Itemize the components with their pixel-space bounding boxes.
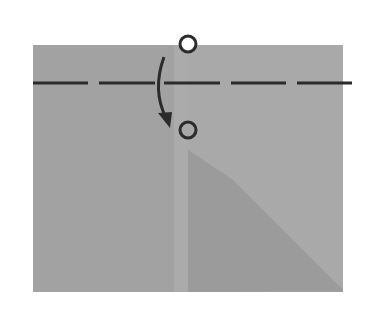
start-point-circle-icon [180, 36, 196, 52]
end-point-circle-icon [180, 122, 196, 138]
origami-diagram [0, 0, 370, 312]
